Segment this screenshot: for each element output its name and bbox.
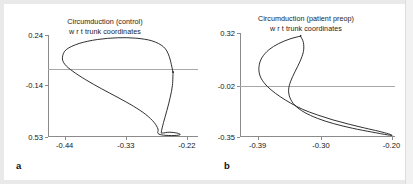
panel-b-x-tick-0 <box>258 137 259 140</box>
panel-b-y-tick-2 <box>237 137 240 138</box>
panel-b-x-label-0: -0.39 <box>249 141 266 150</box>
panel-a-y-label-1: -0.14 <box>26 81 43 90</box>
panel-a-x-label-2: -0.22 <box>178 141 195 150</box>
panel-a-y-label-2: 0.53 <box>28 133 43 142</box>
panel-a-y-tick-2 <box>45 137 48 138</box>
panel-b-x-label-2: -0.20 <box>383 141 400 150</box>
panel-b-y-label-0: 0.32 <box>220 29 235 38</box>
panel-b-letter: b <box>224 160 230 171</box>
panel-a-x-label-0: -0.44 <box>56 141 73 150</box>
figure-edge-right <box>406 0 413 184</box>
panel-b-y-label-1: -0.02 <box>218 81 235 90</box>
panel-b-x-tick-1 <box>321 137 322 140</box>
panel-a-letter: a <box>16 160 21 171</box>
panel-b-y-label-2: -0.35 <box>218 133 235 142</box>
panel-b-title-line2: w r t trunk coordinates <box>206 24 406 34</box>
panel-a-x-label-1: -0.33 <box>117 141 134 150</box>
panel-a-data-curve <box>48 35 198 137</box>
panel-a-x-tick-1 <box>126 137 127 140</box>
panel-a-y-label-0: 0.24 <box>28 31 43 40</box>
panel-a-title-line1: Circumduction (control) <box>4 17 206 27</box>
panel-a-x-tick-0 <box>65 137 66 140</box>
panel-b-x-label-1: -0.30 <box>312 141 329 150</box>
panel-b-plot-area: 0.32 -0.02 -0.35 -0.39 -0.30 -0.20 <box>240 33 395 137</box>
panel-b-x-tick-2 <box>392 137 393 140</box>
panel-b-data-curve <box>240 33 395 137</box>
figure-container: Circumduction (control) w r t trunk coor… <box>0 0 413 184</box>
panel-a-plot-area: 0.24 -0.14 0.53 -0.44 -0.33 -0.22 <box>48 35 198 137</box>
panel-a-x-tick-2 <box>187 137 188 140</box>
panel-b-title-line1: Circumduction (patient preop) <box>206 14 406 24</box>
panel-a: Circumduction (control) w r t trunk coor… <box>4 0 206 184</box>
panel-b-title: Circumduction (patient preop) w r t trun… <box>206 14 406 33</box>
panel-b: Circumduction (patient preop) w r t trun… <box>206 0 406 184</box>
